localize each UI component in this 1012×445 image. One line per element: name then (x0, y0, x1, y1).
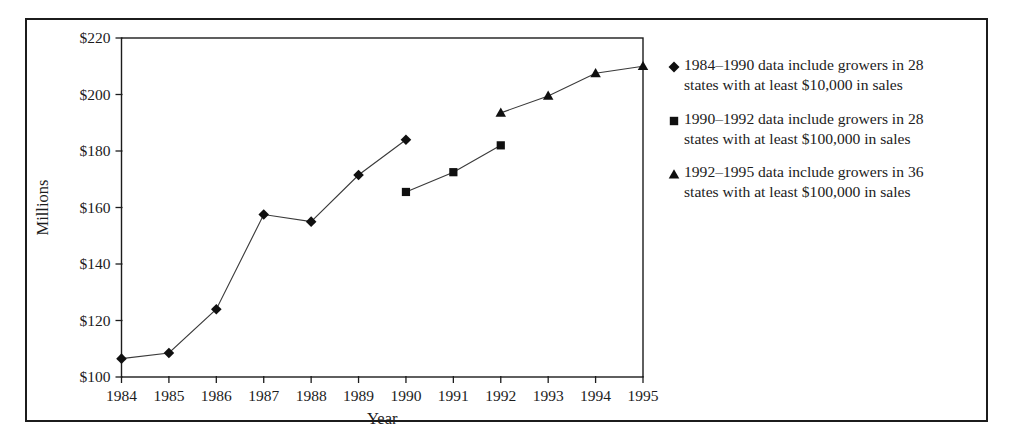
legend-line-2: states with at least $10,000 in sales (684, 76, 903, 93)
legend-item-diamond: 1984–1990 data include growers in 28 sta… (668, 55, 968, 96)
x-axis-tick-label: 1988 (296, 387, 327, 404)
x-axis-tick-label: 1995 (628, 387, 659, 404)
square-marker-icon (668, 115, 684, 127)
data-point-diamond (401, 134, 412, 145)
data-point-diamond (258, 209, 269, 220)
legend-item-label: 1992–1995 data include growers in 36 sta… (684, 162, 952, 203)
x-axis-tick-label: 1993 (533, 387, 564, 404)
legend-line-2: states with at least $100,000 in sales (684, 183, 911, 200)
chart-legend: 1984–1990 data include growers in 28 sta… (668, 55, 968, 216)
legend-item-triangle: 1992–1995 data include growers in 36 sta… (668, 162, 968, 203)
data-point-square (497, 141, 505, 149)
series-line-diamond (122, 140, 406, 359)
legend-item-square: 1990–1992 data include growers in 28 sta… (668, 109, 968, 150)
figure-root: $100$120$140$160$180$200$220198419851986… (0, 0, 1012, 445)
legend-line-2: states with at least $100,000 in sales (684, 130, 911, 147)
x-axis-tick-label: 1991 (438, 387, 469, 404)
x-axis-tick-label: 1985 (153, 387, 184, 404)
legend-line-1: 1990–1992 data include growers in 28 (684, 110, 924, 127)
y-axis-tick-label: $100 (80, 368, 111, 385)
y-axis-tick-label: $220 (80, 29, 111, 46)
legend-line-1: 1992–1995 data include growers in 36 (684, 163, 924, 180)
x-axis-tick-label: 1989 (343, 387, 374, 404)
legend-item-label: 1990–1992 data include growers in 28 sta… (684, 109, 952, 150)
x-axis-tick-label: 1990 (390, 387, 421, 404)
legend-item-label: 1984–1990 data include growers in 28 sta… (684, 55, 952, 96)
plot-frame (122, 38, 644, 377)
y-axis-tick-label: $200 (80, 86, 111, 103)
y-axis-tick-label: $160 (80, 199, 111, 216)
x-axis-title: Year (367, 409, 398, 428)
y-axis-tick-label: $180 (80, 142, 111, 159)
x-axis-tick-label: 1994 (580, 387, 611, 404)
data-point-square (402, 188, 410, 196)
legend-line-1: 1984–1990 data include growers in 28 (684, 56, 924, 73)
x-axis-tick-label: 1987 (248, 387, 279, 404)
data-point-triangle (543, 91, 554, 100)
y-axis-title: Millions (33, 180, 52, 236)
y-axis-tick-label: $120 (80, 312, 111, 329)
triangle-marker-icon (668, 168, 684, 180)
y-axis-tick-label: $140 (80, 255, 111, 272)
x-axis-tick-label: 1984 (106, 387, 137, 404)
data-point-triangle (638, 61, 649, 70)
plot-area: $100$120$140$160$180$200$220198419851986… (33, 29, 659, 428)
x-axis-tick-label: 1986 (201, 387, 232, 404)
data-point-square (449, 168, 457, 176)
data-point-diamond (116, 353, 127, 364)
diamond-marker-icon (668, 61, 684, 73)
x-axis-tick-label: 1992 (485, 387, 516, 404)
series-line-triangle (501, 66, 643, 113)
